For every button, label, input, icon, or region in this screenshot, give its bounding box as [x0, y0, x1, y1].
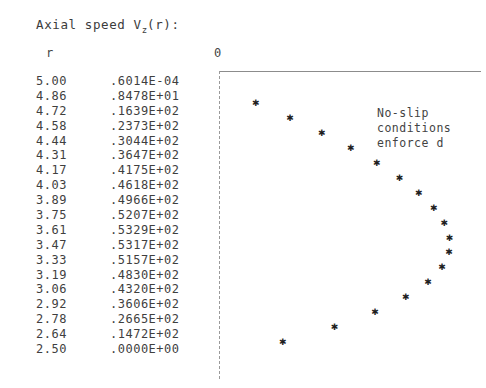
cell-radius: 3.33	[36, 253, 67, 268]
cell-radius: 2.50	[36, 342, 67, 357]
cell-speed: .8478E+01	[110, 89, 180, 104]
data-point	[347, 144, 354, 151]
title-suffix: (r):	[147, 17, 180, 32]
annotation-line-2: conditions	[377, 121, 451, 135]
table-row: 5.00.6014E-04	[36, 74, 206, 89]
cell-radius: 4.17	[36, 163, 67, 178]
table-row: 3.19.4830E+02	[36, 268, 206, 283]
cell-radius: 4.31	[36, 148, 67, 163]
data-point	[279, 338, 286, 345]
cell-radius: 5.00	[36, 74, 67, 89]
cell-radius: 4.58	[36, 119, 67, 134]
data-point	[446, 234, 453, 241]
table-row: 3.33.5157E+02	[36, 253, 206, 268]
cell-speed: .5317E+02	[110, 238, 180, 253]
axis-left-line	[219, 71, 220, 379]
axis-top-line	[219, 71, 481, 72]
cell-radius: 3.47	[36, 238, 67, 253]
cell-radius: 3.75	[36, 208, 67, 223]
cell-speed: .0000E+00	[110, 342, 180, 357]
cell-speed: .5329E+02	[110, 223, 180, 238]
table-row: 2.64.1472E+02	[36, 327, 206, 342]
table-row: 3.47.5317E+02	[36, 238, 206, 253]
data-point	[286, 114, 293, 121]
table-row: 4.03.4618E+02	[36, 178, 206, 193]
table-row: 4.58.2373E+02	[36, 119, 206, 134]
annotation-line-1: No-slip	[377, 106, 429, 120]
table-row: 3.06.4320E+02	[36, 282, 206, 297]
cell-speed: .6014E-04	[110, 74, 180, 89]
column-header-r: r	[46, 46, 54, 60]
table-row: 3.89.4966E+02	[36, 193, 206, 208]
cell-speed: .5157E+02	[110, 253, 180, 268]
cell-radius: 3.06	[36, 282, 67, 297]
cell-radius: 3.61	[36, 223, 67, 238]
data-point	[440, 219, 447, 226]
table-row: 2.50.0000E+00	[36, 342, 206, 357]
cell-speed: .3606E+02	[110, 297, 180, 312]
cell-radius: 4.72	[36, 104, 67, 119]
data-point	[371, 308, 378, 315]
table-row: 4.31.3647E+02	[36, 148, 206, 163]
data-point	[318, 129, 325, 136]
cell-speed: .1639E+02	[110, 104, 180, 119]
cell-speed: .3044E+02	[110, 134, 180, 149]
table-row: 4.72.1639E+02	[36, 104, 206, 119]
cell-speed: .3647E+02	[110, 148, 180, 163]
cell-speed: .2373E+02	[110, 119, 180, 134]
data-point	[331, 323, 338, 330]
data-point	[396, 174, 403, 181]
cell-radius: 3.89	[36, 193, 67, 208]
table-row: 4.17.4175E+02	[36, 163, 206, 178]
data-point	[424, 278, 431, 285]
cell-speed: .5207E+02	[110, 208, 180, 223]
cell-radius: 2.92	[36, 297, 67, 312]
cell-radius: 4.44	[36, 134, 67, 149]
data-point	[430, 204, 437, 211]
table-row: 4.44.3044E+02	[36, 134, 206, 149]
page-title: Axial speed Vz(r):	[36, 17, 180, 35]
annotation-line-3: enforce d	[377, 136, 444, 150]
cell-speed: .4175E+02	[110, 163, 180, 178]
cell-speed: .1472E+02	[110, 327, 180, 342]
cell-radius: 4.03	[36, 178, 67, 193]
table-row: 2.92.3606E+02	[36, 297, 206, 312]
data-table: 5.00.6014E-044.86.8478E+014.72.1639E+024…	[36, 74, 206, 357]
cell-radius: 2.64	[36, 327, 67, 342]
cell-speed: .2665E+02	[110, 312, 180, 327]
data-point	[252, 99, 259, 106]
cell-radius: 4.86	[36, 89, 67, 104]
table-row: 4.86.8478E+01	[36, 89, 206, 104]
table-row: 2.78.2665E+02	[36, 312, 206, 327]
axis-origin-label: 0	[214, 46, 222, 60]
cell-speed: .4320E+02	[110, 282, 180, 297]
cell-radius: 2.78	[36, 312, 67, 327]
table-row: 3.75.5207E+02	[36, 208, 206, 223]
data-point	[445, 248, 452, 255]
cell-radius: 3.19	[36, 268, 67, 283]
cell-speed: .4618E+02	[110, 178, 180, 193]
data-point	[415, 189, 422, 196]
table-row: 3.61.5329E+02	[36, 223, 206, 238]
cell-speed: .4966E+02	[110, 193, 180, 208]
data-point	[438, 263, 445, 270]
data-point	[402, 293, 409, 300]
data-point	[373, 159, 380, 166]
cell-speed: .4830E+02	[110, 268, 180, 283]
axial-speed-output-screen: Axial speed Vz(r): r 0 5.00.6014E-044.86…	[0, 0, 486, 388]
no-slip-annotation: No-slip conditions enforce d	[377, 106, 451, 151]
title-prefix: Axial speed V	[36, 17, 142, 32]
